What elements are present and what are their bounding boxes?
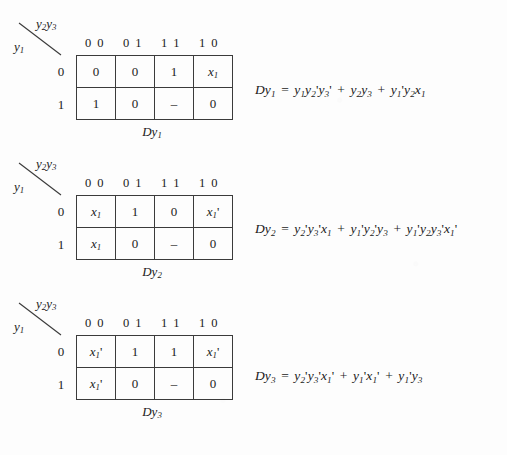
column-header: 0 0 xyxy=(76,316,114,333)
kmap-cell: x1' xyxy=(194,196,233,228)
kmap-cell: x1' xyxy=(77,336,116,368)
kmap-cell: x1' xyxy=(77,368,116,400)
kmap-column-headers: 0 0 0 1 1 1 1 0 xyxy=(76,36,228,53)
kmap-cell: 1 xyxy=(155,336,194,368)
kmap-cell: 0 xyxy=(116,228,155,260)
kmap-cell: x1' xyxy=(194,336,233,368)
kmap-cell: – xyxy=(155,228,194,260)
row-label: 1 xyxy=(50,368,72,401)
kmap-row-labels: 0 1 xyxy=(50,55,72,121)
kmap-row-variable: y1 xyxy=(14,179,24,195)
table-row: x1' 0 – 0 xyxy=(77,368,233,400)
column-header: 0 0 xyxy=(76,176,114,193)
kmap-caption: Dy1 xyxy=(76,124,228,140)
kmap-grid: x1 1 0 x1' x1 0 – 0 xyxy=(76,195,233,260)
row-label: 0 xyxy=(50,335,72,368)
kmap-row-labels: 0 1 xyxy=(50,195,72,261)
equation-dy3: Dy3 = y2'y3'x1' + y1'x1' + y1'y3 xyxy=(255,368,422,384)
kmap-cell: 0 xyxy=(77,56,116,88)
kmap-cell: 1 xyxy=(77,88,116,120)
column-header: 1 0 xyxy=(190,316,228,333)
kmap-caption: Dy3 xyxy=(76,404,228,420)
kmap-cell: 0 xyxy=(194,88,233,120)
kmap-cell: – xyxy=(155,88,194,120)
kmap-cell: 0 xyxy=(116,56,155,88)
kmap-cell: x1 xyxy=(77,228,116,260)
kmap-column-variables: y2y3 xyxy=(36,156,56,172)
kmap-cell: 1 xyxy=(155,56,194,88)
kmap-column-variables: y2y3 xyxy=(36,296,56,312)
kmap-cell: 0 xyxy=(194,228,233,260)
kmap-row-variable: y1 xyxy=(14,39,24,55)
column-header: 0 1 xyxy=(114,316,152,333)
column-header: 1 0 xyxy=(190,36,228,53)
kmap-cell: 0 xyxy=(155,196,194,228)
kmap-grid: 0 0 1 x1 1 0 – 0 xyxy=(76,55,233,120)
kmap-caption: Dy2 xyxy=(76,264,228,280)
kmap-cell: 0 xyxy=(194,368,233,400)
row-label: 0 xyxy=(50,195,72,228)
column-header: 0 1 xyxy=(114,176,152,193)
table-row: x1 1 0 x1' xyxy=(77,196,233,228)
column-header: 1 1 xyxy=(152,176,190,193)
row-label: 1 xyxy=(50,88,72,121)
row-label: 1 xyxy=(50,228,72,261)
kmap-row-labels: 0 1 xyxy=(50,335,72,401)
kmap-cell: x1 xyxy=(194,56,233,88)
kmap-cell: 1 xyxy=(116,336,155,368)
column-header: 0 0 xyxy=(76,36,114,53)
equation-dy1: Dy1 = y1y2'y3' + y2y3 + y1'y2x1 xyxy=(255,82,426,98)
kmap-row-variable: y1 xyxy=(14,319,24,335)
row-label: 0 xyxy=(50,55,72,88)
kmap-cell: 1 xyxy=(116,196,155,228)
table-row: x1' 1 1 x1' xyxy=(77,336,233,368)
kmap-column-headers: 0 0 0 1 1 1 1 0 xyxy=(76,316,228,333)
column-header: 1 1 xyxy=(152,36,190,53)
kmap-column-headers: 0 0 0 1 1 1 1 0 xyxy=(76,176,228,193)
column-header: 1 0 xyxy=(190,176,228,193)
kmap-grid: x1' 1 1 x1' x1' 0 – 0 xyxy=(76,335,233,400)
kmap-cell: 0 xyxy=(116,88,155,120)
kmap-cell: – xyxy=(155,368,194,400)
column-header: 0 1 xyxy=(114,36,152,53)
table-row: 0 0 1 x1 xyxy=(77,56,233,88)
table-row: 1 0 – 0 xyxy=(77,88,233,120)
equation-dy2: Dy2 = y2'y3'x1 + y1'y2'y3 + y1'y2y3'x1' xyxy=(255,221,457,237)
column-header: 1 1 xyxy=(152,316,190,333)
kmap-cell: 0 xyxy=(116,368,155,400)
table-row: x1 0 – 0 xyxy=(77,228,233,260)
kmap-cell: x1 xyxy=(77,196,116,228)
kmap-column-variables: y2y3 xyxy=(36,16,56,32)
worksheet-page: y2y3 y1 0 0 0 1 1 1 1 0 0 1 0 0 1 x1 1 0 xyxy=(0,0,507,455)
